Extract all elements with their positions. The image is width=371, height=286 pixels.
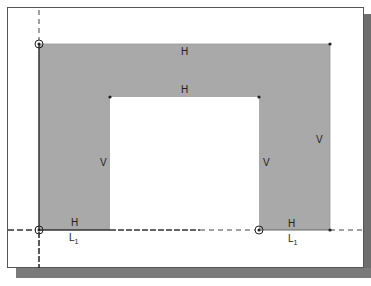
constraint-outer-top-horizontal: H (181, 46, 188, 57)
vertex-outer-top-right[interactable] (328, 42, 331, 45)
constraint-left-leg-vertical: V (100, 157, 107, 168)
vertex-inner-top-right[interactable] (257, 95, 260, 98)
constraint-right-outer-vertical: V (316, 134, 323, 145)
vertex-bottom-right[interactable] (328, 228, 331, 231)
constraint-left-bottom-horizontal: H (71, 217, 78, 228)
constraint-inner-top-horizontal: H (181, 84, 188, 95)
line-reference-left: L1 (69, 232, 79, 245)
sketch-canvas[interactable]: H H V V V H H L1 L1 (0, 0, 371, 286)
constraint-right-bottom-horizontal: H (288, 218, 295, 229)
line-reference-right: L1 (288, 233, 298, 246)
vertex-inner-top-left[interactable] (108, 95, 111, 98)
u-profile-shape[interactable] (39, 44, 330, 230)
constraint-right-leg-vertical: V (263, 157, 270, 168)
